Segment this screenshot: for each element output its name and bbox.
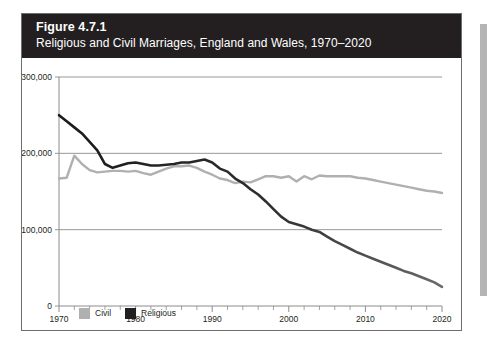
legend-swatch-civil: [79, 308, 90, 319]
line-chart-plot: 0100,000200,000300,000 19701980199020002…: [22, 58, 463, 332]
figure-number: Figure 4.7.1: [36, 19, 461, 35]
figure-title-bar: Figure 4.7.1 Religious and Civil Marriag…: [22, 14, 461, 58]
x-axis-tick-label: 2020: [433, 314, 452, 324]
y-axis-tick-label: 100,000: [22, 225, 52, 235]
x-axis-tick-label: 2000: [279, 314, 298, 324]
y-axis-tick-label: 0: [47, 301, 52, 311]
legend-swatch-religious: [125, 308, 136, 319]
series-line-religious: [59, 115, 442, 287]
gridlines-group: [55, 77, 442, 306]
y-axis-tick-labels: 0100,000200,000300,000: [22, 72, 52, 311]
x-axis-tick-label: 2010: [356, 314, 375, 324]
legend-item-civil: Civil: [79, 308, 111, 319]
figure-panel: Figure 4.7.1 Religious and Civil Marriag…: [21, 13, 462, 331]
chart-legend: Civil Religious: [79, 308, 176, 319]
figure-subtitle: Religious and Civil Marriages, England a…: [36, 35, 461, 52]
figure-root: Figure 4.7.1 Religious and Civil Marriag…: [0, 0, 494, 346]
legend-label-civil: Civil: [95, 308, 111, 319]
chart-area: 0100,000200,000300,000 19701980199020002…: [22, 58, 463, 332]
y-axis-tick-label: 300,000: [22, 72, 52, 82]
x-axis-tick-label: 1990: [203, 314, 222, 324]
series-line-civil: [59, 156, 442, 193]
page-edge-marker: [480, 24, 487, 296]
data-series-group: [59, 115, 442, 287]
legend-item-religious: Religious: [125, 308, 176, 319]
y-axis-tick-label: 200,000: [22, 148, 52, 158]
legend-label-religious: Religious: [141, 308, 176, 319]
x-axis-tick-label: 1970: [50, 314, 69, 324]
